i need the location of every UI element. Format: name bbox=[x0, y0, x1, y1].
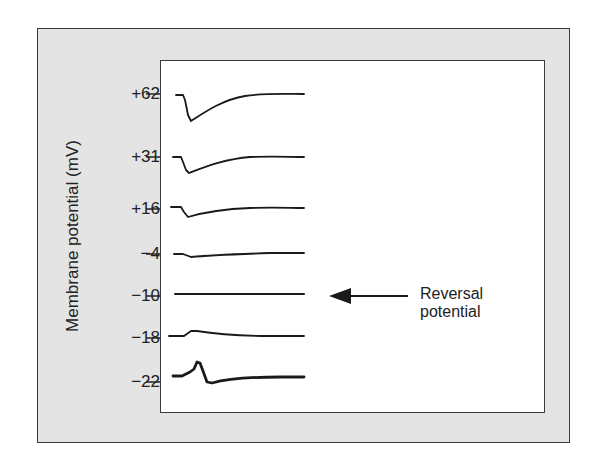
trace-plus31 bbox=[173, 157, 304, 173]
trace-minus4 bbox=[174, 253, 304, 257]
reversal-potential-annotation: Reversal potential bbox=[420, 285, 483, 321]
arrow-icon bbox=[329, 288, 408, 304]
annotation-line: Reversal bbox=[420, 285, 483, 303]
traces bbox=[0, 0, 608, 473]
trace-minus22 bbox=[173, 362, 304, 383]
trace-plus62 bbox=[176, 94, 304, 121]
trace-plus16 bbox=[171, 207, 304, 217]
annotation-line: potential bbox=[420, 303, 483, 321]
trace-minus18 bbox=[169, 331, 304, 336]
